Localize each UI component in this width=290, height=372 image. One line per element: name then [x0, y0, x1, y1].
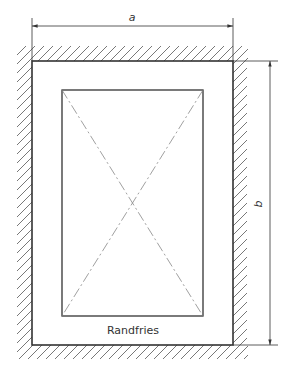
border-frieze-label: Randfries	[107, 324, 159, 337]
dimension-a-label: a	[129, 11, 136, 24]
wall-opening-diagram: a b Randfries	[0, 0, 290, 372]
dimension-b-label: b	[252, 200, 265, 207]
